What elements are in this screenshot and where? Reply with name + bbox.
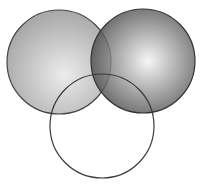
venn-diagram — [0, 0, 205, 193]
right-circle — [91, 9, 195, 113]
